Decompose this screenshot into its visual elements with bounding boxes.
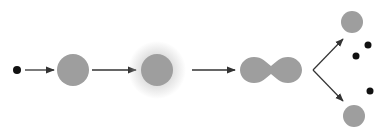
arrow-to-lower-fragment bbox=[313, 70, 343, 101]
fission-diagram: Nuclear fission sequence bbox=[0, 0, 386, 134]
fission-fragment-lower bbox=[343, 105, 365, 127]
fission-fragment-upper bbox=[341, 11, 363, 33]
released-neutron bbox=[367, 88, 374, 95]
diagram-canvas bbox=[0, 0, 386, 134]
nucleus bbox=[57, 54, 89, 86]
excited-nucleus bbox=[141, 54, 173, 86]
incoming-neutron bbox=[13, 66, 21, 74]
released-neutron bbox=[365, 42, 372, 49]
deformed-nucleus bbox=[240, 57, 302, 83]
released-neutron bbox=[353, 53, 360, 60]
arrow-to-upper-fragment bbox=[313, 39, 343, 70]
